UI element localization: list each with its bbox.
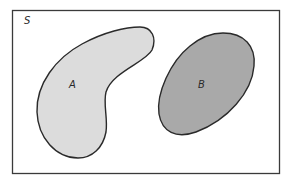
set-b-label: B: [198, 79, 205, 90]
venn-diagram: S A B: [0, 0, 293, 184]
set-a-label: A: [68, 79, 76, 90]
universe-label: S: [24, 15, 31, 26]
